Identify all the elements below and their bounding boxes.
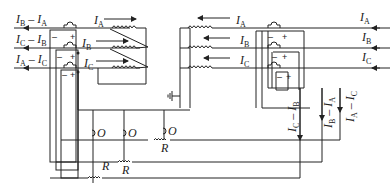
svg-text:O: O bbox=[168, 124, 177, 138]
svg-text:–: – bbox=[268, 32, 273, 42]
svg-text:+: + bbox=[282, 32, 287, 42]
svg-text:+: + bbox=[286, 72, 291, 82]
svg-text:IB: IB bbox=[361, 30, 371, 46]
svg-text:O: O bbox=[97, 126, 106, 140]
svg-text:IA: IA bbox=[93, 13, 104, 29]
svg-text:–: – bbox=[57, 52, 62, 62]
svg-text:–: – bbox=[277, 72, 282, 82]
left-output-label-2: IC – IB bbox=[15, 32, 47, 48]
svg-text:IC: IC bbox=[239, 53, 249, 69]
svg-text:IA – IC: IA – IC bbox=[343, 91, 359, 123]
svg-text:IB: IB bbox=[81, 36, 91, 52]
left-delta-windings bbox=[98, 26, 148, 84]
svg-text:–: – bbox=[62, 70, 67, 80]
svg-text:+: + bbox=[282, 52, 287, 62]
left-ct-secondaries: – + – + – + bbox=[50, 30, 80, 178]
svg-text:IC: IC bbox=[83, 56, 93, 72]
svg-text:+: + bbox=[70, 70, 75, 80]
ground-icon bbox=[168, 91, 180, 101]
svg-text:–: – bbox=[272, 52, 277, 62]
svg-text:IA – IC: IA – IC bbox=[15, 52, 47, 68]
svg-text:+: + bbox=[70, 52, 75, 62]
right-ct-secondaries: – + – + – + bbox=[256, 31, 310, 108]
left-ct-arrows: IA IB IC bbox=[81, 13, 136, 72]
svg-text:R: R bbox=[101, 159, 110, 173]
diagram-canvas: IB – IA IC – IB IA – IC – + – + – + IA I… bbox=[0, 0, 392, 187]
right-ct-arrows: IA IB IC bbox=[198, 13, 249, 69]
right-input-arrows: IA IB IC bbox=[359, 10, 390, 68]
svg-text:IA: IA bbox=[359, 10, 370, 26]
svg-text:IC: IC bbox=[361, 50, 371, 66]
svg-text:–: – bbox=[52, 32, 57, 42]
svg-text:IC – IB: IC – IB bbox=[15, 32, 47, 48]
left-output-label-1: IB – IA bbox=[15, 12, 47, 28]
svg-text:IC – IB: IC – IB bbox=[285, 101, 301, 133]
svg-text:IA: IA bbox=[235, 13, 246, 29]
svg-text:+: + bbox=[70, 32, 75, 42]
svg-text:O: O bbox=[128, 126, 137, 140]
left-output-label-3: IA – IC bbox=[15, 52, 47, 68]
svg-text:IB – IA: IB – IA bbox=[15, 12, 47, 28]
svg-text:IB: IB bbox=[239, 33, 249, 49]
svg-text:R: R bbox=[121, 163, 130, 177]
svg-text:IB – IA: IB – IA bbox=[321, 97, 337, 129]
svg-text:R: R bbox=[160, 141, 169, 155]
